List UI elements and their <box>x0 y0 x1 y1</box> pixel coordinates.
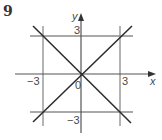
tick-label-x-neg3: −3 <box>27 75 40 87</box>
origin-label: 0 <box>75 79 81 91</box>
tick-label-y-neg3: −3 <box>67 114 80 126</box>
y-axis-arrow-icon <box>78 13 84 21</box>
x-axis-label: x <box>149 75 156 87</box>
y-axis-label: y <box>71 10 79 22</box>
coordinate-graph: y x 3 −3 −3 3 0 <box>0 0 162 140</box>
tick-label-x-pos3: 3 <box>122 75 128 87</box>
tick-label-y-pos3: 3 <box>74 24 80 36</box>
